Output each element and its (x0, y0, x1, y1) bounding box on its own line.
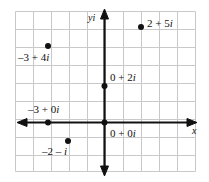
label-neg3-plus-4i: –3 + 4i (18, 52, 49, 63)
point-0-plus-2i (102, 83, 108, 89)
complex-plane-figure: yi x 2 + 5i –3 + 4i 0 + 2i –3 + 0i 0 + 0… (0, 0, 209, 182)
plot-canvas (0, 0, 209, 182)
point-neg3-plus-4i (45, 43, 51, 49)
label-0-plus-0i-text: 0 + 0 (110, 127, 133, 139)
label-2-plus-5i-text: 2 + 5 (147, 17, 170, 29)
y-axis-label: yi (88, 13, 95, 23)
label-neg2-minus-i: –2 – i (42, 146, 67, 157)
label-neg3-plus-0i-text: –3 + 0 (28, 103, 56, 115)
imaginary-unit-glyph: i (133, 71, 136, 83)
point-neg3-plus-0i (45, 120, 51, 126)
point-neg2-minus-i (65, 138, 71, 144)
imaginary-unit-glyph: i (56, 103, 59, 115)
y-axis-arrow-up (101, 9, 109, 19)
label-neg2-minus-i-text: –2 – (42, 145, 64, 157)
label-0-plus-2i: 0 + 2i (110, 72, 136, 83)
point-2-plus-5i (138, 24, 144, 30)
label-neg3-plus-0i: –3 + 0i (28, 104, 59, 115)
label-0-plus-0i: 0 + 0i (110, 128, 136, 139)
point-0-plus-0i (102, 120, 108, 126)
label-0-plus-2i-text: 0 + 2 (110, 71, 133, 83)
imaginary-unit-glyph: i (133, 127, 136, 139)
label-neg3-plus-4i-text: –3 + 4 (18, 51, 46, 63)
imaginary-unit-glyph: i (46, 51, 49, 63)
x-axis-label: x (192, 126, 196, 136)
label-2-plus-5i: 2 + 5i (147, 18, 173, 29)
imaginary-unit-glyph: i (64, 145, 67, 157)
imaginary-unit-glyph: i (170, 17, 173, 29)
